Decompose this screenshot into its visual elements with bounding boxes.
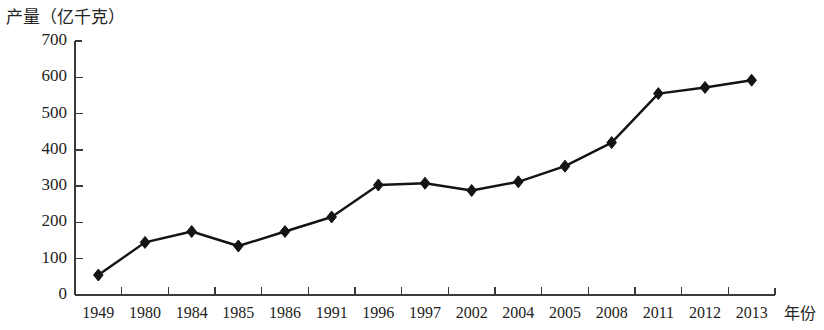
chart-figure: 产量（亿千克） 年份 0100200300400500600700 194919… bbox=[0, 0, 824, 330]
data-point-marker bbox=[94, 269, 104, 281]
data-point-marker bbox=[514, 176, 524, 188]
data-point-marker bbox=[700, 81, 710, 93]
data-point-marker bbox=[280, 226, 290, 238]
data-point-marker bbox=[560, 160, 570, 172]
data-point-marker bbox=[467, 184, 477, 196]
line-chart-plot bbox=[0, 0, 824, 330]
data-point-marker bbox=[187, 226, 197, 238]
data-point-marker bbox=[420, 177, 430, 189]
data-point-markers bbox=[94, 74, 757, 281]
data-point-marker bbox=[140, 236, 150, 248]
data-point-marker bbox=[747, 74, 757, 86]
chart-axes bbox=[75, 41, 775, 295]
data-point-marker bbox=[374, 179, 384, 191]
data-point-marker bbox=[327, 211, 337, 223]
data-point-marker bbox=[234, 240, 244, 252]
